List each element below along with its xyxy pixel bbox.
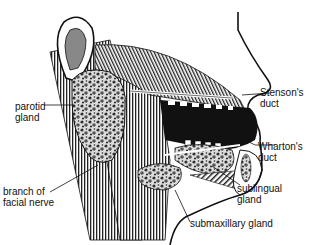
label-line-1: parotid xyxy=(15,101,46,112)
label-line-1: sublingual xyxy=(237,183,282,194)
label-line-2: facial nerve xyxy=(3,197,54,208)
label-line-1: Stenson's xyxy=(260,87,304,98)
label-facial-nerve: branch of facial nerve xyxy=(3,186,54,208)
lip-gland xyxy=(241,154,251,182)
salivary-gland-diagram: parotid gland branch of facial nerve Ste… xyxy=(0,0,310,245)
label-stensons-duct: Stenson's duct xyxy=(260,87,304,109)
label-line-2: duct xyxy=(260,98,304,109)
label-line-1: branch of xyxy=(3,186,54,197)
label-whartons-duct: Wharton's duct xyxy=(258,141,303,163)
label-line-2: gland xyxy=(15,112,46,123)
submaxillary-gland-shape xyxy=(138,163,181,190)
label-line-2: duct xyxy=(258,152,303,163)
label-parotid-gland: parotid gland xyxy=(15,101,46,123)
label-sublingual-gland: sublingual gland xyxy=(237,183,282,205)
label-line-1: Wharton's xyxy=(258,141,303,152)
label-line-2: gland xyxy=(237,194,282,205)
anatomy-illustration xyxy=(0,0,310,245)
label-submaxillary-gland: submaxillary gland xyxy=(190,218,273,229)
label-line-1: submaxillary gland xyxy=(190,218,273,229)
